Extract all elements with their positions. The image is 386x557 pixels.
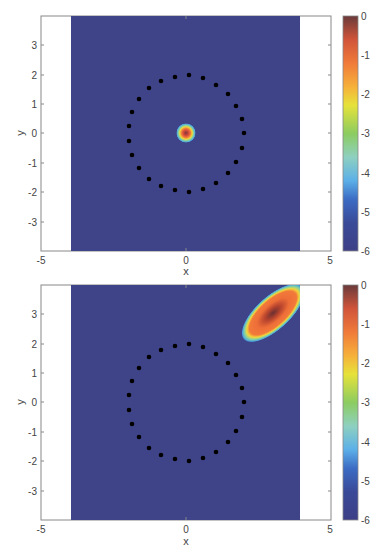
ytick-label: 0 [31,397,37,408]
svg-text:-3: -3 [361,128,370,139]
ytick-label: 2 [31,339,37,350]
ytick-label: -2 [28,456,37,467]
svg-text:-2: -2 [361,89,370,100]
svg-text:-2: -2 [361,358,370,369]
bottom-colorbar [343,285,358,520]
ytick-label: 2 [31,70,37,81]
xtick-label: 5 [327,524,333,535]
svg-text:-6: -6 [361,515,370,526]
bottom-figure: 3 2 1 0 -1 -2 -3 -5 0 5 x y 0 -1 -2 -3 -… [0,269,386,557]
svg-text:-5: -5 [361,476,370,487]
ytick-label: 0 [31,128,37,139]
y-axis-label: y [14,399,26,405]
xtick-label: -5 [37,255,46,266]
top-figure: 3 2 1 0 -1 -2 -3 -5 0 5 x y 0 -1 -2 -3 -… [0,0,386,275]
ytick-label: 3 [31,40,37,51]
svg-text:-4: -4 [361,437,370,448]
x-axis-label: x [183,535,189,547]
bottom-colorbar-labels: 0 -1 -2 -3 -4 -5 -6 [361,280,370,526]
svg-text:-4: -4 [361,168,370,179]
xtick-label: 5 [327,255,333,266]
ytick-label: -1 [28,427,37,438]
ytick-label: 1 [31,99,37,110]
ytick-label: -3 [28,486,37,497]
xtick-label: 0 [183,524,189,535]
top-colorbar [343,16,358,251]
ytick-label: 3 [31,309,37,320]
top-chart-svg: 3 2 1 0 -1 -2 -3 -5 0 5 x y 0 -1 -2 -3 -… [0,0,386,275]
svg-text:-5: -5 [361,207,370,218]
top-colorbar-labels: 0 -1 -2 -3 -4 -5 -6 [361,11,370,257]
svg-text:0: 0 [361,11,367,22]
svg-text:-1: -1 [361,319,370,330]
ytick-label: -3 [28,217,37,228]
svg-text:-6: -6 [361,246,370,257]
svg-text:-3: -3 [361,397,370,408]
y-axis-label: y [14,130,26,136]
ytick-label: -2 [28,187,37,198]
ytick-label: 1 [31,368,37,379]
top-peak-blob [176,123,196,143]
bottom-chart-svg: 3 2 1 0 -1 -2 -3 -5 0 5 x y 0 -1 -2 -3 -… [0,269,386,557]
xtick-label: -5 [37,524,46,535]
svg-text:-1: -1 [361,50,370,61]
svg-text:0: 0 [361,280,367,291]
ytick-label: -1 [28,158,37,169]
